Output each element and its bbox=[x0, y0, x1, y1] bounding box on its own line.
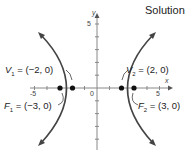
x-tick-5: 5 bbox=[156, 90, 160, 97]
f2-label: F2 = (3, 0) bbox=[138, 100, 180, 113]
f1-leader bbox=[58, 93, 63, 105]
hyperbola-left-branch bbox=[41, 35, 67, 143]
focus-f2-point bbox=[131, 85, 136, 90]
x-tick-0: 0 bbox=[90, 90, 94, 97]
x-tick-neg5: -5 bbox=[30, 90, 36, 97]
x-axis-arrow-icon bbox=[168, 86, 173, 91]
vertex-v2-point bbox=[119, 85, 124, 90]
vertex-v1-point bbox=[70, 85, 75, 90]
solution-title: Solution bbox=[145, 4, 185, 16]
y-tick-5: 5 bbox=[87, 20, 91, 27]
v1-label: V1 = (−2, 0) bbox=[5, 64, 53, 77]
f1-label: F1 = (−3, 0) bbox=[4, 100, 52, 113]
y-axis-label: y bbox=[92, 9, 96, 16]
v2-label: V2 = (2, 0) bbox=[126, 64, 169, 77]
v1-leader bbox=[66, 70, 72, 80]
x-axis-label: x bbox=[165, 77, 169, 84]
hyperbola-right-branch bbox=[128, 35, 154, 143]
focus-f1-point bbox=[57, 85, 62, 90]
